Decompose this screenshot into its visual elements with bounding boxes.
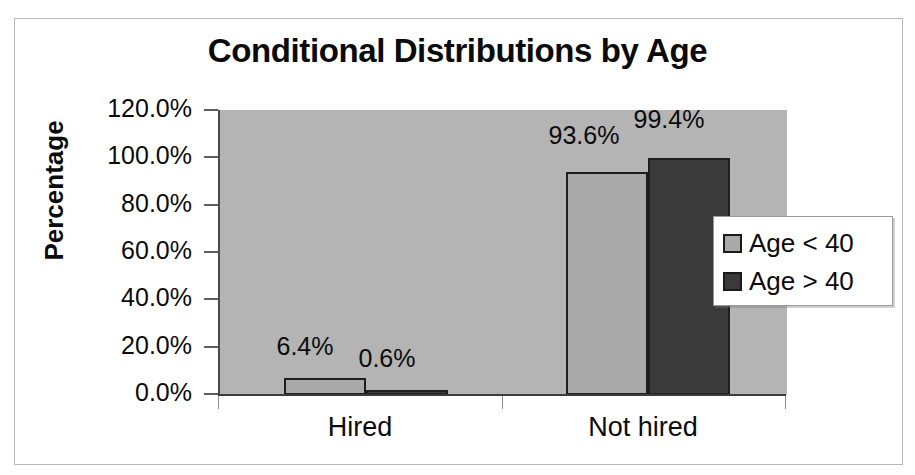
x-category-label-not-hired: Not hired <box>543 412 743 443</box>
bar-hired-age-under-40 <box>284 378 366 395</box>
x-category-label-hired: Hired <box>260 412 460 443</box>
y-tick-mark <box>204 393 218 395</box>
y-tick-mark <box>204 251 218 253</box>
y-tick-label: 60.0% <box>121 236 192 265</box>
y-tick-label: 80.0% <box>121 189 192 218</box>
legend-label: Age < 40 <box>749 228 854 259</box>
y-tick-mark <box>204 204 218 206</box>
y-tick-label: 120.0% <box>107 94 192 123</box>
y-tick-label: 0.0% <box>135 378 192 407</box>
y-tick-label: 100.0% <box>107 141 192 170</box>
y-tick-mark <box>204 109 218 111</box>
y-tick-label: 20.0% <box>121 331 192 360</box>
legend-label: Age > 40 <box>749 266 854 297</box>
bar-value-hired-age-over-40: 0.6% <box>325 344 449 373</box>
x-divider-left <box>218 396 219 409</box>
y-axis-title: Percentage <box>39 101 70 281</box>
y-tick-label: 40.0% <box>121 283 192 312</box>
legend-swatch-icon <box>723 272 742 291</box>
x-divider-middle <box>502 396 503 409</box>
bar-not-hired-age-under-40 <box>566 172 648 395</box>
legend-item-age-under-40: Age < 40 <box>723 224 892 262</box>
chart-figure: Conditional Distributions by Age Percent… <box>0 0 915 475</box>
y-tick-mark <box>204 346 218 348</box>
chart-title: Conditional Distributions by Age <box>0 32 915 70</box>
x-divider-right <box>785 396 786 409</box>
y-tick-mark <box>204 156 218 158</box>
legend-swatch-icon <box>723 234 742 253</box>
legend-item-age-over-40: Age > 40 <box>723 262 892 300</box>
legend: Age < 40 Age > 40 <box>713 216 893 306</box>
bar-value-not-hired-age-over-40: 99.4% <box>607 105 731 134</box>
y-tick-mark <box>204 298 218 300</box>
